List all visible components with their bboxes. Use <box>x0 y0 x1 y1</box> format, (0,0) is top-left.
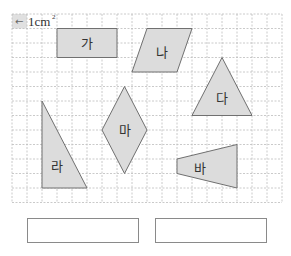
shapes <box>42 29 252 189</box>
unit-superscript: 2 <box>52 13 56 21</box>
unit-text: 1cm <box>28 14 50 29</box>
unit-arrow-icon: ← <box>15 16 23 27</box>
unit-label: ← 1cm 2 <box>15 13 56 29</box>
answer-box-1[interactable] <box>27 218 139 243</box>
answer-box-2[interactable] <box>155 218 267 243</box>
shape-label: 다 <box>216 91 228 106</box>
shape-label: 마 <box>119 123 131 138</box>
shape-label: 나 <box>156 45 168 60</box>
shape-label: 가 <box>81 36 93 51</box>
shape-label: 라 <box>51 159 63 174</box>
shape-label: 바 <box>194 161 206 176</box>
grid-figure: 가나다라마바 ← 1cm 2 <box>0 0 291 210</box>
